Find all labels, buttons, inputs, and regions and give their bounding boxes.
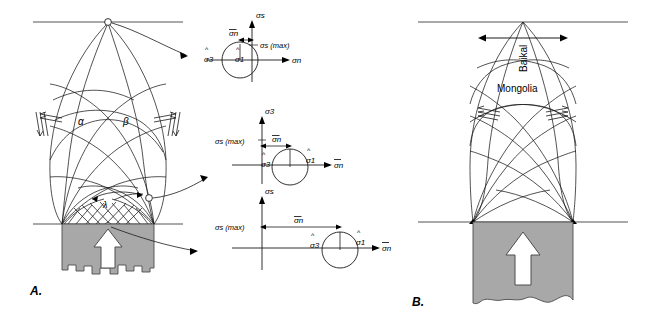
mohr-mid-sigma3-hat: ^: [262, 151, 266, 158]
mohr-bot-haxis-arrowhead: [372, 245, 380, 251]
leader-arrowhead-bottom: [190, 248, 198, 255]
mohr-circle-top: σs σn σs (max) σn σ3 ^ σ1 ^: [204, 11, 302, 82]
lambda-arrow-right: [137, 192, 143, 198]
figure-svg: λ α β A.: [0, 0, 656, 327]
mohr-mid-meanstress-label: σn: [272, 135, 282, 144]
baikal-arrowhead-left: [478, 35, 486, 42]
label-baikal: Baikal: [518, 45, 529, 72]
stress-point-marker-middle: [146, 195, 153, 202]
mohr-top-vaxis-label: σs: [256, 11, 265, 20]
mohr-mid-vaxis-arrowhead: [259, 116, 265, 124]
mohr-top-sigma1-hat: ^: [236, 46, 240, 53]
mohr-bot-sigma3-label: σ3: [310, 241, 320, 250]
mohr-mid-sigma1-label: σ1: [306, 156, 315, 165]
baikal-arrowhead-right: [560, 35, 568, 42]
mohr-top-meanstress-label: σn: [229, 29, 239, 38]
mohr-top-vaxis-arrowhead: [249, 20, 255, 28]
mohr-mid-mean-arrow-left: [260, 144, 266, 149]
mohr-bot-meanstress-label: σn: [294, 216, 304, 225]
mohr-mid-mean-arrow-right: [286, 144, 292, 149]
mohr-bot-sigma1-hat: ^: [357, 229, 361, 236]
shear-arrows-right: [154, 112, 180, 136]
mohr-mid-haxis-label: σn: [334, 161, 344, 170]
mohr-circle-middle: σ3 σn σs (max) σn σ3 ^ σ1 ^: [215, 107, 344, 185]
panel-a: λ α β A.: [29, 19, 208, 298]
mohr-bot-sigma1-label: σ1: [356, 238, 365, 247]
mohr-bot-mean-arrow-left: [260, 225, 266, 230]
mohr-mid-haxis-arrowhead: [324, 162, 332, 168]
mohr-mid-sigma3-label: σ3: [261, 160, 271, 169]
figure-root: λ α β A.: [0, 0, 656, 327]
label-mongolia: Mongolia: [497, 83, 538, 94]
mohr-top-sigma3-hat: ^: [205, 46, 209, 53]
mohr-top-haxis-arrowhead: [282, 57, 290, 63]
mohr-bot-sigma3-hat: ^: [311, 232, 315, 239]
shear-arrows-left: [36, 112, 62, 136]
mohr-bot-smax-label: σs (max): [215, 223, 245, 232]
slip-line-field-a: [50, 23, 166, 224]
mohr-top-mean-arrow-right: [248, 38, 254, 43]
mohr-mid-vaxis-label: σ3: [265, 107, 275, 116]
mohr-top-smax-label: σs (max): [260, 41, 290, 50]
mohr-mid-sigma1-hat: ^: [307, 147, 311, 154]
mohr-bot-haxis-label: σn: [382, 244, 392, 253]
label-alpha: α: [78, 116, 84, 127]
panel-label-a: A.: [29, 284, 42, 298]
mohr-mid-smax-label: σs (max): [215, 137, 245, 146]
mohr-bot-mean-arrow-right: [336, 225, 342, 230]
mohr-top-sigma1-label: σ1: [235, 55, 244, 64]
mohr-circle-bottom: σs σn σs (max) σn σ3 ^ σ1 ^: [215, 187, 392, 270]
panel-label-b: B.: [412, 295, 424, 309]
mohr-bot-vaxis-arrowhead: [259, 196, 265, 204]
mohr-bot-vaxis-label: σs: [265, 187, 274, 196]
leader-arrowhead-top: [180, 52, 188, 59]
panel-b: Baikal Mongolia B.: [412, 22, 628, 309]
mohr-top-haxis-label: σn: [292, 56, 302, 65]
label-beta: β: [122, 116, 129, 127]
stress-point-marker-top: [105, 19, 112, 26]
label-lambda: λ: [102, 200, 107, 210]
mohr-top-sigma3-label: σ3: [204, 55, 214, 64]
